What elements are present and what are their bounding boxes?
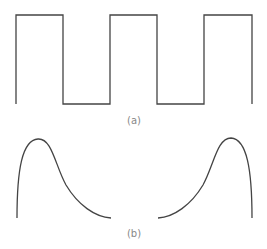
right-pulse-curve <box>158 138 252 218</box>
panel-b-label: (b) <box>114 228 154 239</box>
square-wave <box>16 15 252 104</box>
left-pulse-curve <box>17 139 111 218</box>
panel-a-label: (a) <box>114 115 154 126</box>
